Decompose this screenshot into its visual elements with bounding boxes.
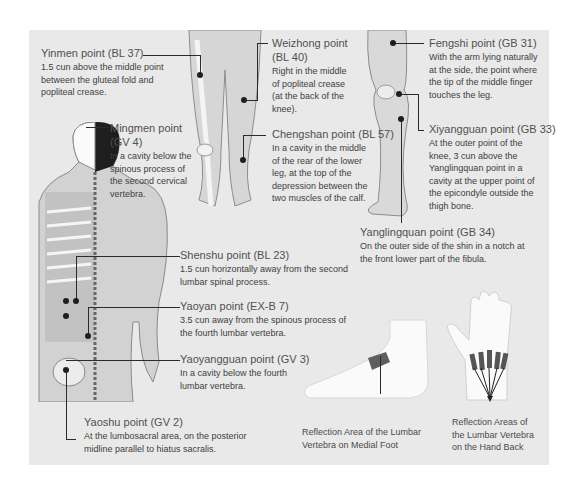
label-weizhong: Weizhong point (BL 40) Right in the midd… [272,37,356,115]
title-xiyangguan: Xiyangguan point (GB 33) [429,123,541,136]
hand-back-illustration [445,290,545,402]
label-mingmen: Mingmen point (GV 4) In a cavity below t… [110,122,198,200]
dot-shenshu-a [63,298,69,304]
label-yaoyangguan: Yaoyangguan point (GV 3) In a cavity bel… [180,353,298,392]
desc-xiyangguan: At the outer point of the knee, 3 cun ab… [429,137,541,212]
label-yaoyan: Yaoyan point (EX-B 7) 3.5 cun away from … [180,300,350,339]
dot-fengshi [390,40,396,46]
label-fengshi: Fengshi point (GB 31) With the arm lying… [429,37,541,101]
dot-yinmen [197,72,203,78]
leader-yaoyan [88,307,180,308]
dot-weizhong [241,97,247,103]
desc-shenshu: 1.5 cun horizontally away from the secon… [180,263,350,288]
leader-weizhong-v [257,43,258,100]
label-xiyangguan: Xiyangguan point (GB 33) At the outer po… [429,123,541,212]
desc-chengshan: In a cavity in the middle of the rear of… [272,142,374,205]
leader-foot [380,356,381,394]
leader-shenshu-v [76,256,77,300]
desc-mingmen: In a cavity below the spinous process of… [110,150,198,200]
desc-yinmen: 1.5 cun above the middle point between t… [41,61,171,99]
leader-fengshi [395,43,424,44]
dot-chengshan [240,157,246,163]
title-chengshan: Chengshan point (BL 57) [272,128,374,141]
leader-chengshan [244,135,266,136]
label-chengshan: Chengshan point (BL 57) In a cavity in t… [272,128,374,205]
dot-shenshu-b [73,298,79,304]
title-fengshi: Fengshi point (GB 31) [429,37,541,50]
desc-yaoshu: At the lumbosacral area, on the posterio… [84,430,254,455]
leader-yaoshu-v [66,370,67,430]
dot-yanglingquan [398,116,404,122]
title-yanglingquan: Yanglingquan point (GB 34) [360,226,530,239]
dot-yaoyan-spine [63,313,69,319]
title-yaoyan: Yaoyan point (EX-B 7) [180,300,350,313]
leader-yaoyan-v [88,307,89,334]
desc-yaoyangguan: In a cavity below the fourth lumbar vert… [180,367,298,392]
title-shenshu: Shenshu point (BL 23) [180,249,350,262]
desc-yanglingquan: On the outer side of the shin in a notch… [360,240,530,265]
title-yinmen: Yinmen point (BL 37) [41,47,171,60]
label-shenshu: Shenshu point (BL 23) 1.5 cun horizontal… [180,249,350,288]
label-yinmen: Yinmen point (BL 37) 1.5 cun above the m… [41,47,171,99]
title-mingmen-line2: (GV 4) [110,136,198,149]
leader-yanglingquan [401,118,402,223]
leader-yaoshu-v2 [66,430,67,440]
leader-chengshan-v [243,135,244,159]
title-weizhong-line2: (BL 40) [272,51,356,64]
desc-fengshi: With the arm lying naturally at the side… [429,51,541,101]
leader-yaoshu [66,439,76,440]
label-yanglingquan: Yanglingquan point (GB 34) On the outer … [360,226,530,265]
leader-mingmen [86,127,108,128]
desc-yaoyan: 3.5 cun away from the spinous process of… [180,314,350,339]
label-yaoshu: Yaoshu point (GV 2) At the lumbosacral a… [84,416,254,455]
dot-xiyangguan [396,91,402,97]
desc-weizhong: Right in the middle of popliteal crease … [272,65,356,115]
leader-xiyangguan-h2 [418,130,424,131]
title-weizhong-line1: Weizhong point [272,37,356,50]
leader-shenshu [76,256,180,257]
leader-xiyangguan-v [418,94,419,130]
title-yaoshu: Yaoshu point (GV 2) [84,416,254,429]
leader-weizhong [258,43,268,44]
title-mingmen-line1: Mingmen point [110,122,198,135]
caption-foot: Reflection Area of the Lumbar Vertebra o… [302,426,432,451]
title-yaoyangguan: Yaoyangguan point (GV 3) [180,353,298,366]
leader-yaoyangguan [66,360,180,361]
caption-hand: Reflection Areas of the Lumbar Vertebra … [452,416,542,454]
dot-yaoyan [85,333,91,339]
